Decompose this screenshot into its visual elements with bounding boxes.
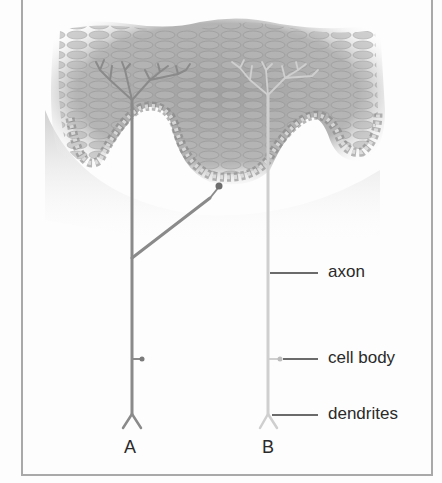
leader-lines [270,273,318,415]
epidermis-layer [51,18,385,184]
neuron-label-a: A [124,437,136,458]
label-cell-body: cell body [328,348,395,368]
label-axon: axon [328,262,365,282]
label-dendrites: dendrites [328,404,398,424]
neuron-label-b: B [262,437,274,458]
